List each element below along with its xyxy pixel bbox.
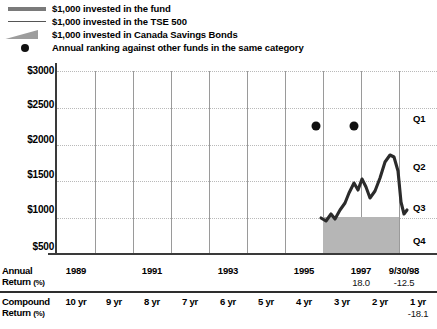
annual-period-1997: 1997 [342,265,380,276]
quartile-label-q1: Q1 [413,114,425,124]
legend-item-label: $1,000 invested in the fund [52,2,171,15]
legend-item-fund: $1,000 invested in the fund [0,2,437,15]
fund-performance-line [57,71,437,255]
annual-period-93098: 9/30/98 [378,265,430,276]
quartile-label-q3: Q3 [413,203,425,213]
compound-return-unit: (%) [33,309,45,318]
y-axis-label-1000: $1000 [2,205,54,215]
annual-return-label-line2: Return [2,276,31,287]
y-axis-label-2500: $2500 [2,100,54,110]
returns-tables: Annual Return (%) 1989 1991 1993 1995 19… [0,258,437,329]
chart-legend: $1,000 invested in the fund $1,000 inves… [0,2,437,54]
annual-period-1989: 1989 [57,265,95,276]
fund-line-swatch-icon [8,2,46,15]
annual-period-1995: 1995 [285,265,323,276]
compound-period-10yr: 10 yr [57,296,95,307]
ranking-dot-1997 [312,122,321,131]
legend-item-csb: $1,000 invested in Canada Savings Bonds [0,28,437,41]
annual-return-unit: (%) [33,278,45,287]
compound-period-4yr: 4 yr [285,296,323,307]
y-axis-label-3000: $3000 [2,66,54,76]
compound-period-6yr: 6 yr [209,296,247,307]
quartile-label-q4: Q4 [413,236,425,246]
annual-period-1993: 1993 [209,265,247,276]
annual-value-1997: 18.0 [342,277,380,288]
y-axis-label-2000: $2000 [2,135,54,145]
growth-chart: $3000 $2500 $2000 $1500 $1000 $500 [0,58,437,258]
savings-bonds-triangle-swatch-icon [0,30,38,39]
legend-item-label: $1,000 invested in Canada Savings Bonds [52,28,238,41]
compound-period-9yr: 9 yr [95,296,133,307]
table-divider [0,291,437,293]
quartile-label-q2: Q2 [413,162,425,172]
compound-return-label-line1: Compound [2,296,50,307]
legend-item-ranking: Annual ranking against other funds in th… [0,41,437,54]
compound-period-8yr: 8 yr [133,296,171,307]
compound-period-1yr: 1 yr [399,296,437,307]
compound-period-3yr: 3 yr [323,296,361,307]
legend-item-label: Annual ranking against other funds in th… [52,41,304,54]
y-axis-spine [55,63,57,255]
compound-period-7yr: 7 yr [171,296,209,307]
ranking-dot-swatch-icon [8,41,46,54]
annual-return-row-label: Annual Return (%) [2,265,58,288]
tse-line-swatch-icon [8,15,46,28]
y-axis-label-1500: $1500 [2,170,54,180]
compound-period-5yr: 5 yr [247,296,285,307]
y-axis-label-500: $500 [2,242,54,252]
annual-period-1991: 1991 [133,265,171,276]
compound-return-label-line2: Return [2,307,31,318]
ranking-dot-1998 [350,122,359,131]
annual-value-93098: -12.5 [378,277,430,288]
compound-return-row-label: Compound Return (%) [2,296,58,319]
plot-area [57,71,437,255]
legend-item-tse500: $1,000 invested in the TSE 500 [0,15,437,28]
x-axis-baseline [48,253,437,255]
compound-period-2yr: 2 yr [361,296,399,307]
legend-item-label: $1,000 invested in the TSE 500 [52,15,187,28]
compound-value-1yr: -18.1 [399,308,437,319]
annual-return-label-line1: Annual [2,265,32,276]
